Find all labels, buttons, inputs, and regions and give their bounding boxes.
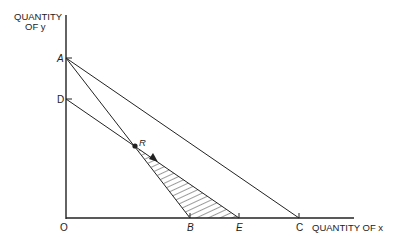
label-E: E: [236, 222, 243, 233]
label-R: R: [139, 137, 146, 148]
label-A: A: [56, 53, 64, 64]
label-O: O: [60, 222, 68, 233]
label-B: B: [187, 222, 194, 233]
label-D: D: [57, 94, 64, 105]
x-axis-label: QUANTITY OF x: [312, 222, 383, 233]
diagram-canvas: QUANTITY OF y A D O R B E C QUANTITY OF …: [0, 0, 396, 237]
point-R-dot: [132, 143, 137, 148]
y-axis-label-line2: OF y: [25, 21, 46, 32]
label-C: C: [296, 222, 303, 233]
line-AB: [66, 58, 190, 218]
